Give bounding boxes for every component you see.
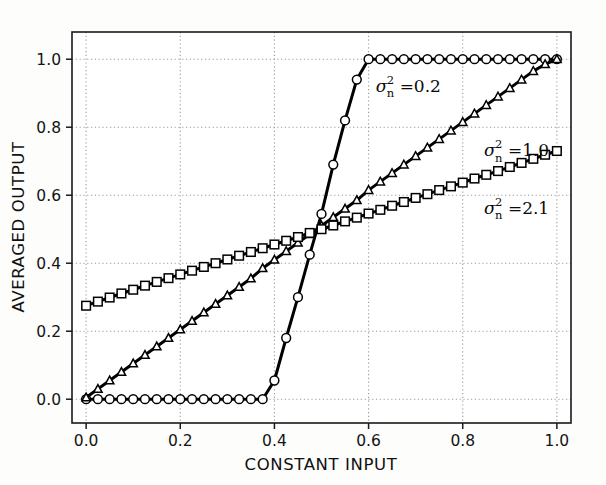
marker-square — [376, 206, 385, 215]
annotation-value: =2.1 — [508, 198, 549, 218]
marker-circle — [176, 395, 185, 404]
marker-circle — [235, 395, 244, 404]
x-tick-label-2: 0.4 — [262, 432, 287, 450]
x-tick-label-1: 0.2 — [168, 432, 193, 450]
marker-square — [435, 186, 444, 195]
marker-square — [341, 217, 350, 226]
marker-square — [329, 221, 338, 230]
marker-circle — [470, 55, 479, 64]
marker-circle — [305, 250, 314, 259]
x-tick-label-5: 1.0 — [545, 432, 570, 450]
annotation-superscript: 2 — [495, 195, 502, 209]
marker-circle — [352, 75, 361, 84]
marker-square — [553, 147, 562, 156]
marker-square — [94, 297, 103, 306]
annotation-subscript: n — [387, 86, 395, 100]
marker-circle — [199, 395, 208, 404]
chart-svg: 0.00.20.40.60.81.0 0.00.20.40.60.81.0 CO… — [0, 0, 606, 485]
marker-circle — [517, 55, 526, 64]
y-tick-label-5: 1.0 — [36, 51, 61, 69]
marker-square — [482, 171, 491, 180]
marker-square — [494, 167, 503, 176]
y-tick-label-0: 0.0 — [36, 391, 61, 409]
annotation-subscript: n — [495, 151, 503, 165]
marker-circle — [529, 55, 538, 64]
marker-circle — [388, 55, 397, 64]
marker-circle — [317, 210, 326, 219]
marker-square — [423, 190, 432, 199]
marker-circle — [482, 55, 491, 64]
marker-circle — [376, 55, 385, 64]
marker-circle — [329, 160, 338, 169]
marker-square — [305, 229, 314, 238]
annotation-superscript: 2 — [495, 137, 502, 151]
marker-square — [200, 263, 209, 272]
marker-square — [152, 278, 161, 287]
marker-square — [164, 274, 173, 283]
x-tick-label-3: 0.6 — [356, 432, 381, 450]
marker-circle — [246, 395, 255, 404]
marker-square — [105, 293, 114, 302]
figure-canvas: 0.00.20.40.60.81.0 0.00.20.40.60.81.0 CO… — [0, 0, 606, 485]
marker-circle — [505, 55, 514, 64]
x-axis-title: CONSTANT INPUT — [245, 455, 398, 474]
y-axis-title: AVERAGED OUTPUT — [9, 141, 28, 312]
marker-circle — [105, 395, 114, 404]
marker-circle — [141, 395, 150, 404]
marker-circle — [399, 55, 408, 64]
marker-square — [282, 236, 291, 245]
marker-square — [117, 289, 126, 298]
marker-circle — [129, 395, 138, 404]
marker-circle — [364, 55, 373, 64]
marker-square — [470, 174, 479, 183]
marker-circle — [152, 395, 161, 404]
marker-circle — [258, 395, 267, 404]
marker-circle — [458, 55, 467, 64]
marker-square — [223, 255, 232, 264]
marker-square — [447, 182, 456, 191]
marker-square — [506, 163, 515, 172]
marker-square — [235, 251, 244, 260]
y-tick-label-4: 0.8 — [36, 119, 61, 137]
marker-square — [211, 259, 220, 268]
marker-circle — [341, 116, 350, 125]
y-tick-label-3: 0.6 — [36, 187, 61, 205]
y-tick-label-1: 0.2 — [36, 323, 61, 341]
annotation-value: =0.2 — [400, 76, 441, 96]
y-tick-label-2: 0.4 — [36, 255, 61, 273]
marker-circle — [494, 55, 503, 64]
marker-circle — [411, 55, 420, 64]
marker-square — [317, 225, 326, 234]
marker-square — [129, 285, 138, 294]
marker-square — [458, 178, 467, 187]
marker-circle — [282, 334, 291, 343]
marker-square — [176, 270, 185, 279]
annotation-subscript: n — [495, 208, 503, 222]
marker-square — [294, 233, 303, 242]
marker-circle — [435, 55, 444, 64]
marker-circle — [117, 395, 126, 404]
marker-circle — [223, 395, 232, 404]
marker-square — [141, 281, 150, 290]
marker-circle — [447, 55, 456, 64]
annotation-superscript: 2 — [387, 73, 394, 87]
marker-circle — [294, 293, 303, 302]
marker-square — [411, 194, 420, 203]
marker-circle — [423, 55, 432, 64]
x-tick-label-0: 0.0 — [74, 432, 99, 450]
marker-square — [258, 244, 267, 253]
marker-square — [353, 213, 362, 222]
marker-circle — [270, 376, 279, 385]
marker-square — [188, 266, 197, 275]
marker-square — [270, 240, 279, 249]
marker-circle — [93, 395, 102, 404]
marker-square — [388, 201, 397, 210]
annotation-value: =1.0 — [508, 140, 549, 160]
marker-square — [247, 248, 256, 257]
marker-circle — [188, 395, 197, 404]
marker-circle — [211, 395, 220, 404]
marker-circle — [164, 395, 173, 404]
marker-square — [400, 198, 409, 207]
marker-square — [82, 301, 91, 310]
marker-square — [364, 209, 373, 218]
